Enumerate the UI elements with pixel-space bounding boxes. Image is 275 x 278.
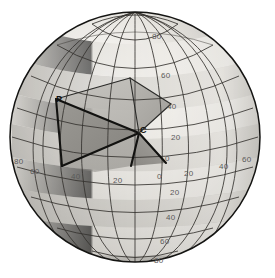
- latitude-label: 0: [165, 155, 170, 163]
- latitude-label: 60: [160, 238, 169, 246]
- longitude-label: 60: [30, 168, 39, 176]
- longitude-label: 20: [113, 177, 122, 185]
- point-label-p: P: [56, 95, 62, 104]
- latitude-label: 80: [154, 257, 163, 265]
- longitude-label: 80: [14, 158, 23, 166]
- globe-illustration: [0, 0, 275, 278]
- latitude-label: 80: [152, 33, 161, 41]
- latitude-label: 20: [170, 189, 179, 197]
- latitude-label: 40: [166, 214, 175, 222]
- latitude-label: 40: [167, 103, 176, 111]
- latitude-label: 20: [171, 134, 180, 142]
- longitude-label: 40: [219, 163, 228, 171]
- longitude-label: 40: [71, 173, 80, 181]
- longitude-label: 60: [242, 156, 251, 164]
- sphere-diagram-figure: 80 60 40 20 0 20 40 60 80 80 60 40 20 0 …: [0, 0, 275, 278]
- longitude-label: 0: [157, 173, 162, 181]
- point-label-c: C: [140, 126, 147, 135]
- longitude-label: 20: [184, 170, 193, 178]
- latitude-label: 60: [161, 72, 170, 80]
